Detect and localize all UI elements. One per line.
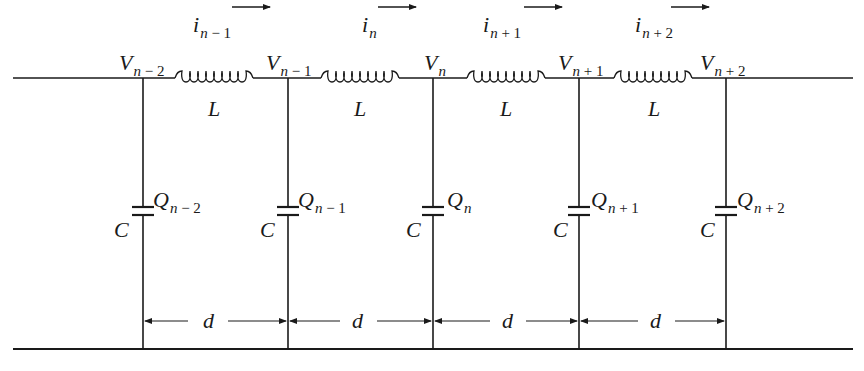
current-label: in + 2 <box>635 14 673 36</box>
spacing-label: d <box>650 310 661 332</box>
charge-label: Qn + 2 <box>737 189 785 211</box>
spacing-label: d <box>203 310 214 332</box>
charge-label: Qn <box>447 189 471 211</box>
capacitor-label: C <box>406 219 421 241</box>
inductor-label: L <box>500 98 512 120</box>
capacitor-label: C <box>700 219 715 241</box>
charge-label: Qn − 1 <box>298 189 346 211</box>
voltage-label: Vn − 2 <box>119 52 164 74</box>
inductor-coil-icon <box>175 71 253 82</box>
capacitor-label: C <box>260 219 275 241</box>
inductor-label: L <box>208 98 220 120</box>
inductor-coil-icon <box>321 71 399 82</box>
spacing-label: d <box>502 310 513 332</box>
inductor-label: L <box>648 98 660 120</box>
inductor-coil-icon <box>467 71 545 82</box>
capacitor-label: C <box>114 219 129 241</box>
voltage-label: Vn <box>424 52 446 74</box>
current-label: in − 1 <box>193 14 231 36</box>
capacitor-label: C <box>553 219 568 241</box>
inductor-label: L <box>354 98 366 120</box>
ladder-circuit-diagram: in − 1 in in + 1 in + 2 Vn − 2 Vn − 1 Vn… <box>0 0 864 371</box>
current-label: in + 1 <box>483 14 521 36</box>
spacing-label: d <box>352 310 363 332</box>
current-label: in <box>362 14 377 36</box>
voltage-label: Vn + 2 <box>700 52 745 74</box>
charge-label: Qn − 2 <box>153 189 201 211</box>
voltage-label: Vn − 1 <box>266 52 311 74</box>
inductor-coil-icon <box>614 71 692 82</box>
voltage-label: Vn + 1 <box>558 52 603 74</box>
capacitor-plates <box>132 207 737 215</box>
charge-label: Qn + 1 <box>591 189 639 211</box>
